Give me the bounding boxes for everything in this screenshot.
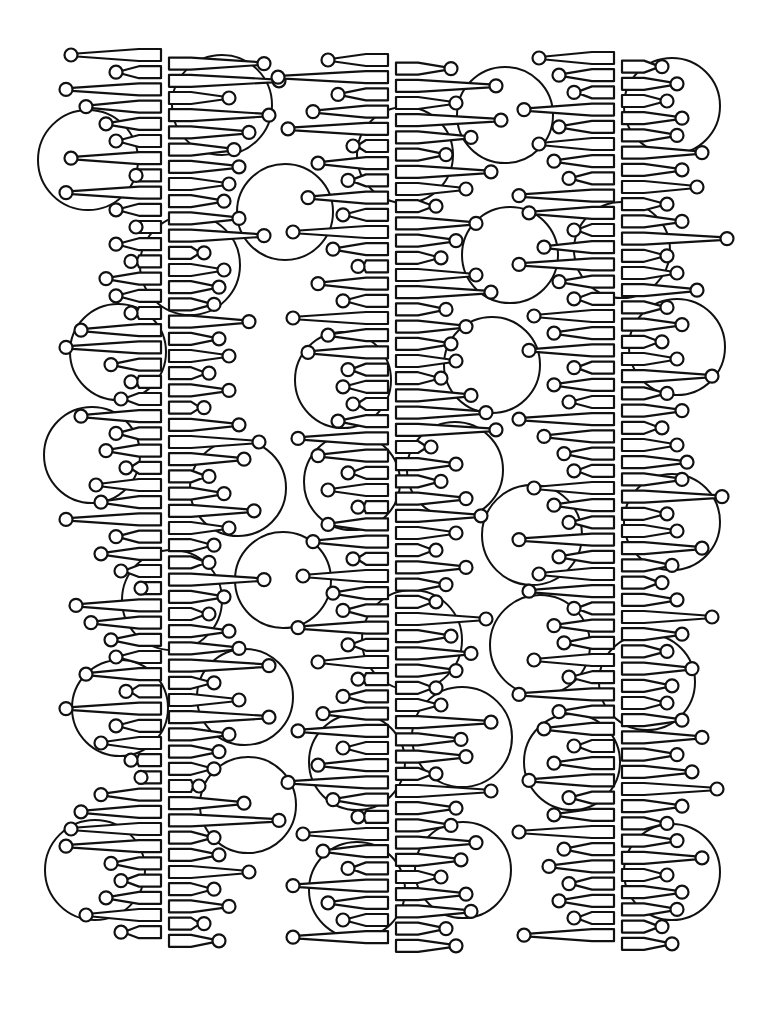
- rung-stem: [169, 316, 243, 328]
- rung-bulb: [666, 559, 679, 572]
- rung-stem: [132, 462, 161, 474]
- rung-stem: [137, 376, 161, 388]
- rung-bulb: [548, 499, 561, 512]
- rung-bulb: [347, 398, 360, 411]
- rung-stem: [169, 608, 203, 620]
- rung-bulb: [548, 155, 561, 168]
- rung-stem: [396, 923, 440, 935]
- rung-bulb: [105, 857, 118, 870]
- rung-bulb: [203, 367, 216, 380]
- rung-bulb: [445, 62, 458, 75]
- rung-bulb: [60, 341, 73, 354]
- rung-stem: [359, 553, 388, 565]
- rung-stem: [622, 938, 666, 950]
- rung-stem: [169, 212, 233, 224]
- rung-stem: [622, 405, 676, 417]
- rung-bulb: [538, 430, 551, 443]
- rung-bulb: [470, 269, 483, 282]
- rung-stem: [622, 577, 656, 589]
- rung-bulb: [706, 370, 719, 383]
- rung-bulb: [666, 937, 679, 950]
- rung-stem: [122, 66, 161, 78]
- rung-stem: [359, 140, 388, 152]
- rung-bulb: [125, 255, 138, 268]
- rung-stem: [122, 531, 161, 543]
- rung-stem: [364, 501, 388, 513]
- rung-stem: [396, 183, 460, 195]
- rung-stem: [339, 243, 388, 255]
- rung-bulb: [450, 939, 463, 952]
- rung-bulb: [686, 765, 699, 778]
- rung-bulb: [125, 754, 138, 767]
- rung-stem: [349, 209, 388, 221]
- rung-stem: [622, 800, 676, 812]
- rung-stem: [132, 685, 161, 697]
- rung-bulb: [563, 877, 576, 890]
- rung-bulb: [450, 234, 463, 247]
- rung-bulb: [490, 79, 503, 92]
- rung-stem: [127, 926, 161, 938]
- rung-bulb: [548, 327, 561, 340]
- circle-shape: [237, 164, 333, 260]
- rung-bulb: [440, 148, 453, 161]
- rung-bulb: [671, 77, 684, 90]
- rung-stem: [622, 611, 706, 623]
- rung-bulb: [553, 894, 566, 907]
- rung-bulb: [287, 226, 300, 239]
- rung-bulb: [292, 621, 305, 634]
- rung-bulb: [563, 516, 576, 529]
- rung-bulb: [60, 513, 73, 526]
- rung-bulb: [671, 129, 684, 142]
- rung-bulb: [243, 126, 256, 139]
- rung-bulb: [538, 722, 551, 735]
- rung-stem: [169, 832, 208, 844]
- rung-stem: [622, 198, 661, 210]
- rung-stem: [396, 407, 480, 419]
- rung-bulb: [568, 912, 581, 925]
- rung-bulb: [238, 453, 251, 466]
- rung-stem: [545, 52, 614, 64]
- rung-bulb: [681, 456, 694, 469]
- rung-bulb: [676, 318, 689, 331]
- rung-stem: [127, 875, 161, 887]
- rung-bulb: [322, 896, 335, 909]
- rung-bulb: [676, 112, 689, 125]
- rung-bulb: [203, 608, 216, 621]
- rung-bulb: [292, 432, 305, 445]
- rung-bulb: [228, 143, 241, 156]
- rung-bulb: [553, 705, 566, 718]
- rung-bulb: [292, 724, 305, 737]
- rung-bulb: [105, 358, 118, 371]
- rung-bulb: [661, 697, 674, 710]
- rung-bulb: [475, 509, 488, 522]
- rung-bulb: [671, 903, 684, 916]
- rung-bulb: [661, 198, 674, 211]
- rung-bulb: [135, 582, 148, 595]
- rung-bulb: [60, 702, 73, 715]
- rung-bulb: [518, 929, 531, 942]
- rung-stem: [169, 763, 208, 775]
- rung-bulb: [661, 301, 674, 314]
- rung-bulb: [110, 719, 123, 732]
- rung-bulb: [671, 267, 684, 280]
- rung-bulb: [470, 836, 483, 849]
- rung-stem: [565, 121, 614, 133]
- rung-bulb: [661, 645, 674, 658]
- rung-bulb: [558, 843, 571, 856]
- rung-bulb: [85, 616, 98, 629]
- circle-shape: [415, 822, 511, 918]
- rung-stem: [396, 544, 430, 556]
- rung-stem: [122, 290, 161, 302]
- rung-bulb: [337, 604, 350, 617]
- rung-bulb: [100, 272, 113, 285]
- rung-bulb: [70, 599, 83, 612]
- rung-bulb: [465, 647, 478, 660]
- rung-bulb: [460, 750, 473, 763]
- rung-stem: [575, 878, 614, 890]
- rung-bulb: [115, 565, 128, 578]
- rung-bulb: [110, 66, 123, 79]
- rung-bulb: [676, 163, 689, 176]
- rung-stem: [169, 900, 223, 912]
- rung-bulb: [65, 152, 78, 165]
- rung-bulb: [485, 716, 498, 729]
